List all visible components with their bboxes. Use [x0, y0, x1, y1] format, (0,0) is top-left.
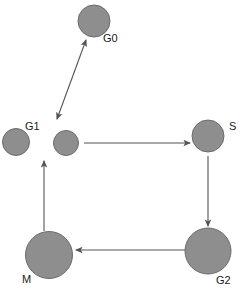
node-label-s: S — [229, 120, 236, 132]
edge-mid-g0 — [57, 40, 86, 119]
diagram-canvas: G0 G1 S M G2 — [0, 0, 246, 289]
node-layer — [3, 5, 232, 279]
node-mid[interactable] — [54, 131, 79, 156]
node-g2[interactable] — [185, 228, 231, 274]
node-m[interactable] — [26, 232, 73, 279]
node-s[interactable] — [192, 120, 224, 152]
node-label-g2: G2 — [216, 274, 231, 286]
node-g1[interactable] — [3, 129, 30, 156]
node-label-m: M — [22, 273, 31, 285]
node-label-g1: G1 — [25, 120, 40, 132]
node-label-g0: G0 — [103, 32, 118, 44]
graph-diagram: G0 G1 S M G2 — [0, 0, 246, 289]
